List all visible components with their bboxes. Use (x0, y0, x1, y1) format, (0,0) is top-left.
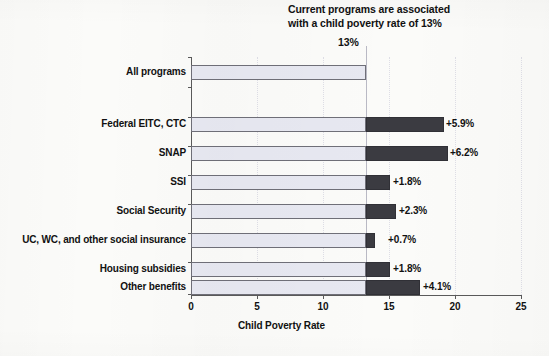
bar-increase-segment (366, 175, 390, 190)
x-tick (389, 295, 390, 299)
bar-value-label: +6.2% (450, 145, 478, 161)
category-label: Housing subsidies (100, 261, 186, 277)
category-label: UC, WC, and other social insurance (22, 232, 186, 248)
bar-value-label: +1.8% (393, 261, 421, 277)
bar-increase-segment (366, 262, 390, 277)
bar-value-label: +2.3% (399, 203, 427, 219)
gridline-25 (521, 57, 522, 295)
bar-base-segment (191, 65, 366, 80)
bar-base-segment (191, 233, 366, 248)
baseline-reference-line (366, 46, 367, 295)
category-label: SNAP (159, 145, 186, 161)
chart-plot-area: Current programs are associated with a c… (0, 0, 549, 356)
category-label: Other benefits (120, 279, 186, 295)
x-tick-label: 10 (318, 301, 329, 312)
bar-value-label: +1.8% (393, 174, 421, 190)
bar-increase-segment (366, 204, 396, 219)
x-tick (191, 295, 192, 299)
chart-annotation: Current programs are associated with a c… (288, 2, 538, 30)
baseline-callout-label: 13% (338, 36, 359, 48)
y-tick (188, 87, 192, 88)
bar-increase-segment (366, 280, 420, 295)
bar-base-segment (191, 146, 366, 161)
category-label: All programs (126, 64, 186, 80)
bar-base-segment (191, 280, 366, 295)
bar-value-label: +0.7% (388, 232, 416, 248)
x-axis-title-text: Child Poverty Rate (238, 320, 325, 331)
x-tick-label: 5 (254, 301, 259, 312)
x-tick-label: 15 (384, 301, 395, 312)
annotation-line-2: with a child poverty rate of 13% (288, 16, 538, 30)
x-tick (257, 295, 258, 299)
gridline-20 (455, 57, 456, 295)
bar-value-label: +5.9% (446, 116, 474, 132)
x-tick-label: 25 (516, 301, 527, 312)
bar-increase-segment (366, 117, 444, 132)
bar-increase-segment (366, 233, 375, 248)
bar-base-segment (191, 262, 366, 277)
category-label: Federal EITC, CTC (101, 116, 186, 132)
x-tick (521, 295, 522, 299)
bar-increase-segment (366, 146, 448, 161)
x-tick-label: 20 (450, 301, 461, 312)
category-label: Social Security (117, 203, 186, 219)
bar-base-segment (191, 204, 366, 219)
bar-base-segment (191, 175, 366, 190)
bar-base-segment (191, 117, 366, 132)
category-label: SSI (170, 174, 186, 190)
x-tick (455, 295, 456, 299)
x-axis-title: Child Poverty Rate (0, 320, 549, 331)
bar-value-label: +4.1% (423, 279, 451, 295)
x-tick (323, 295, 324, 299)
y-tick (188, 57, 192, 58)
annotation-line-1: Current programs are associated (288, 2, 538, 16)
x-axis-line (191, 295, 521, 296)
x-tick-label: 0 (188, 301, 193, 312)
